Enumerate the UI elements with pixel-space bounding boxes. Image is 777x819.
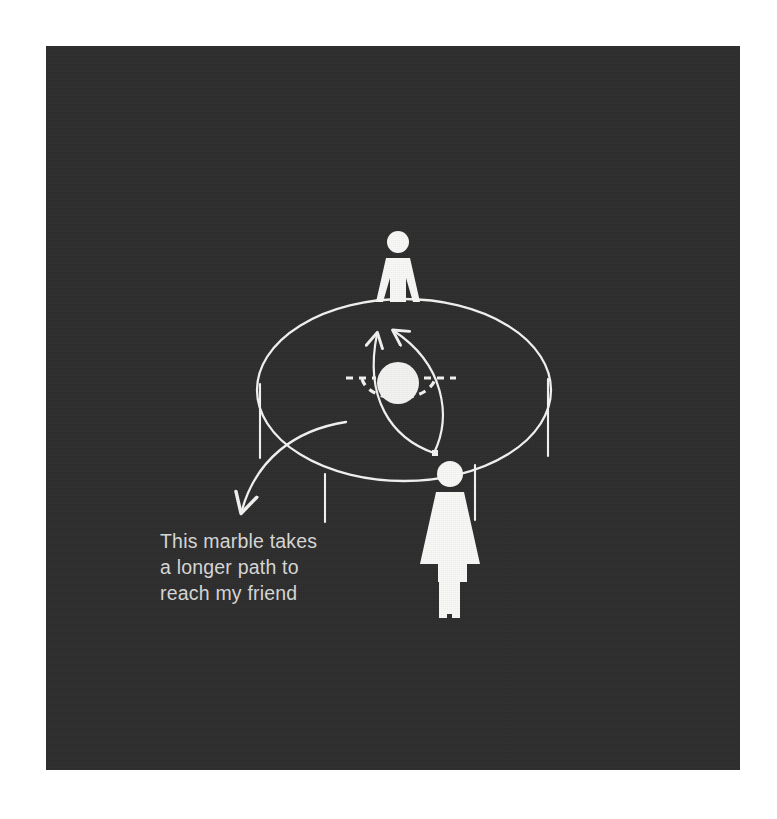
diagram-canvas	[46, 46, 740, 770]
friend-body-icon	[376, 258, 420, 302]
illustration-panel: This marble takes a longer path to reach…	[46, 46, 740, 770]
path-origin-marker-icon	[432, 450, 438, 456]
observer-body-icon	[420, 492, 480, 614]
long-curved-path-arrow	[242, 422, 346, 510]
observer-head-icon	[437, 461, 463, 487]
friend-head-icon	[387, 231, 409, 253]
page-root: This marble takes a longer path to reach…	[0, 0, 777, 819]
observer-leg-left-icon	[439, 576, 447, 618]
marble-sphere	[377, 362, 419, 404]
diagram-caption: This marble takes a longer path to reach…	[160, 528, 390, 606]
friend-figure	[376, 231, 420, 302]
observer-leg-right-icon	[452, 576, 460, 618]
observer-figure	[420, 461, 480, 618]
